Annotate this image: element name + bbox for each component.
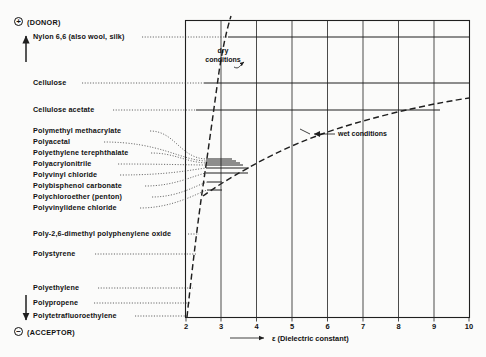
x-axis-title: ε (Dielectric constant): [272, 334, 349, 343]
material-label-polyacetal: Polyacetal: [33, 138, 70, 146]
material-label-pmma: Polymethyl methacrylate: [33, 127, 121, 135]
x-tick-8: 8: [393, 322, 405, 331]
x-axis-ticks: [186, 318, 469, 322]
x-tick-4: 4: [251, 322, 263, 331]
donor-plus-icon: +: [14, 17, 23, 26]
material-label-cellulose-acetate: Cellulose acetate: [33, 106, 94, 114]
acceptor-minus-icon: −: [14, 327, 23, 336]
wet-conditions-annotation: wet conditions: [338, 130, 387, 139]
material-label-pvdc: Polyvinylidene chloride: [33, 204, 117, 212]
x-tick-7: 7: [357, 322, 369, 331]
dry-conditions-line2: conditions: [205, 56, 240, 63]
wet-conditions-curve: [203, 98, 469, 196]
acceptor-label: (ACCEPTOR): [27, 328, 75, 337]
material-label-polystyrene: Polystyrene: [33, 250, 75, 258]
material-label-cellulose: Cellulose: [33, 79, 66, 87]
material-label-pan: Polyacrylonitrile: [33, 160, 91, 168]
donor-label: (DONOR): [27, 18, 61, 27]
x-tick-6: 6: [322, 322, 334, 331]
material-label-penton: Polychloroether (penton): [33, 193, 122, 201]
x-tick-5: 5: [286, 322, 298, 331]
material-label-pet: Polyethylene terephthalate: [33, 149, 128, 157]
material-label-ppo: Poly-2,6-dimethyl polyphenylene oxide: [33, 230, 171, 238]
x-tick-3: 3: [215, 322, 227, 331]
x-tick-9: 9: [428, 322, 440, 331]
vertical-gridlines: [221, 21, 434, 318]
material-label-polycarbonate: Polybisphenol carbonate: [33, 182, 122, 190]
wet-conditions-pointer: [300, 129, 335, 137]
material-label-polypropene: Polypropene: [33, 299, 78, 307]
material-label-pvc: Polyvinyl chloride: [33, 171, 97, 179]
triboelectric-series-figure: .frame{fill:none;stroke:#1f1f1f;stroke-w…: [0, 0, 486, 357]
x-tick-10: 10: [463, 322, 475, 331]
dry-conditions-annotation: dry conditions: [197, 47, 249, 64]
material-label-nylon: Nylon 6,6 (also wool, silk): [33, 33, 125, 41]
x-tick-2: 2: [180, 322, 192, 331]
material-label-ptfe: Polytetrafluoroethylene: [33, 312, 117, 320]
dry-conditions-line1: dry: [218, 47, 229, 54]
label-leader-lines: [82, 37, 228, 316]
material-label-polyethylene: Polyethylene: [33, 284, 79, 292]
